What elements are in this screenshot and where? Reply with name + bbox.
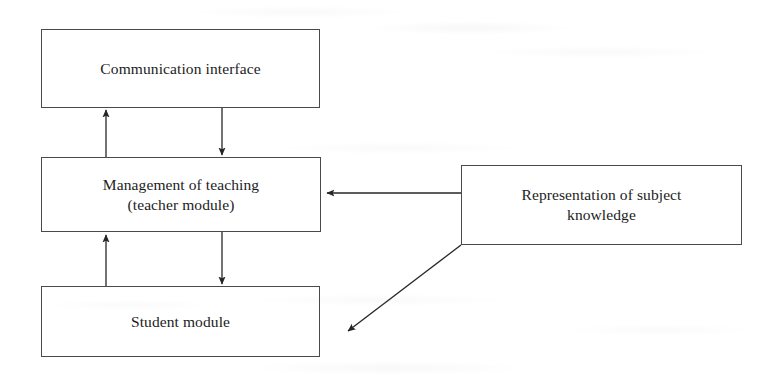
node-management-of-teaching: Management of teaching (teacher module) (41, 157, 321, 232)
edge-knowledge-to-student (348, 245, 461, 331)
node-communication-interface: Communication interface (41, 29, 320, 108)
node-student-module: Student module (41, 286, 320, 357)
node-label-representation-of-subject-knowledge: Representation of subject knowledge (515, 185, 687, 225)
node-label-management-of-teaching: Management of teaching (teacher module) (97, 175, 265, 215)
node-representation-of-subject-knowledge: Representation of subject knowledge (461, 165, 742, 245)
node-label-student-module: Student module (125, 312, 236, 332)
diagram-canvas: Communication interface Management of te… (0, 0, 778, 385)
node-label-communication-interface: Communication interface (94, 59, 266, 79)
